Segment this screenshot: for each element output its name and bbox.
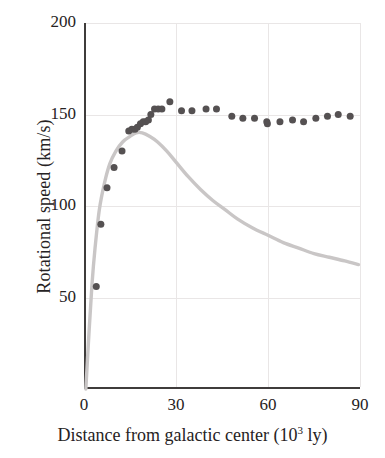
- data-point: [264, 120, 271, 127]
- x-axis-title-main: Distance from galactic center (10: [58, 425, 298, 445]
- data-point: [347, 113, 354, 120]
- x-tick-label-90: 90: [340, 395, 380, 415]
- y-tick-label-150: 150: [32, 104, 76, 124]
- data-point: [166, 98, 173, 105]
- data-point: [119, 148, 126, 155]
- data-point: [228, 113, 235, 120]
- plot-area: [84, 23, 360, 389]
- data-point: [300, 118, 307, 125]
- data-point: [239, 115, 246, 122]
- data-point: [276, 118, 283, 125]
- gridline-x-90: [360, 23, 361, 387]
- data-point: [111, 164, 118, 171]
- y-tick-label-50: 50: [32, 287, 76, 307]
- data-point: [251, 115, 258, 122]
- data-point: [188, 107, 195, 114]
- x-tick-label-30: 30: [156, 395, 196, 415]
- x-axis-title-tail: ly): [303, 425, 328, 445]
- data-layer: [84, 23, 360, 389]
- observed-data-points: [93, 98, 354, 290]
- rotation-curve-figure: Rotational speed (km/s) Distance from ga…: [0, 0, 385, 458]
- data-point: [289, 116, 296, 123]
- data-point: [158, 106, 165, 113]
- data-point: [97, 221, 104, 228]
- data-point: [312, 115, 319, 122]
- y-tick-label-100: 100: [32, 195, 76, 215]
- data-point: [203, 106, 210, 113]
- data-point: [178, 107, 185, 114]
- predicted-curve-line: [86, 132, 359, 389]
- data-point: [93, 283, 100, 290]
- x-tick-label-0: 0: [64, 395, 104, 415]
- data-point: [104, 184, 111, 191]
- y-tick-label-200: 200: [32, 12, 76, 32]
- data-point: [335, 111, 342, 118]
- data-point: [213, 106, 220, 113]
- data-point: [324, 113, 331, 120]
- x-axis-title: Distance from galactic center (103 ly): [0, 424, 385, 446]
- x-tick-label-60: 60: [248, 395, 288, 415]
